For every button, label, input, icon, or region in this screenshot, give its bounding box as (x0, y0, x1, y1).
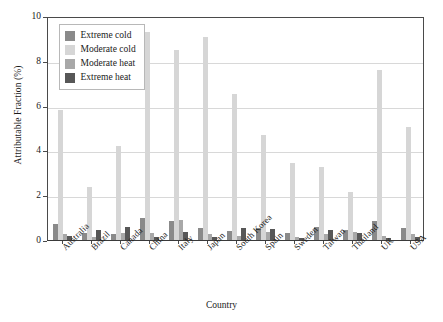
legend-item: Moderate cold (65, 43, 136, 57)
legend-label: Moderate heat (81, 59, 136, 69)
bar-group (343, 18, 363, 240)
legend-swatch (65, 31, 75, 41)
y-tick-label: 0 (3, 236, 41, 246)
bar (232, 94, 237, 240)
y-tick-mark (43, 151, 47, 152)
bar-group (169, 18, 189, 240)
legend-item: Moderate heat (65, 57, 136, 71)
bar (290, 163, 295, 240)
legend-swatch (65, 73, 75, 83)
bar-group (401, 18, 421, 240)
bar (377, 70, 382, 240)
bar (319, 167, 324, 240)
bar (145, 32, 150, 240)
legend-label: Moderate cold (81, 45, 136, 55)
y-tick-label: 6 (3, 102, 41, 112)
bar-group (198, 18, 218, 240)
legend-item: Extreme heat (65, 71, 136, 85)
legend-swatch (65, 45, 75, 55)
y-tick-mark (43, 62, 47, 63)
y-tick-mark (43, 241, 47, 242)
attributable-fraction-bar-chart: Attributable Fraction (%) 0246810 Austra… (0, 0, 443, 322)
legend-label: Extreme heat (81, 73, 131, 83)
legend-item: Extreme cold (65, 29, 136, 43)
y-tick-label: 8 (3, 57, 41, 67)
y-tick-label: 4 (3, 146, 41, 156)
bar (406, 127, 411, 240)
y-tick-mark (43, 107, 47, 108)
bar-group (285, 18, 305, 240)
y-tick-label: 2 (3, 191, 41, 201)
y-axis-title: Attributable Fraction (%) (13, 25, 23, 205)
bar-group (372, 18, 392, 240)
x-axis-title: Country (0, 300, 443, 310)
y-tick-mark (43, 196, 47, 197)
bar-group (227, 18, 247, 240)
bar (203, 37, 208, 240)
bar (58, 110, 63, 240)
bar (116, 146, 121, 240)
legend: Extreme coldModerate coldModerate heatEx… (59, 24, 145, 90)
legend-swatch (65, 59, 75, 69)
y-tick-mark (43, 17, 47, 18)
bar-group (256, 18, 276, 240)
bar-group (314, 18, 334, 240)
legend-label: Extreme cold (81, 31, 132, 41)
bar (87, 187, 92, 240)
bar (174, 50, 179, 240)
y-tick-label: 10 (3, 12, 41, 22)
